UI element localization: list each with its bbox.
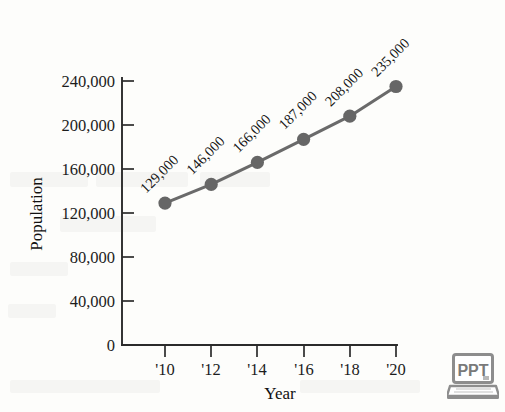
y-axis-title: Population xyxy=(27,177,46,251)
y-tick-label: 80,000 xyxy=(70,248,115,267)
data-point-label: 129,000 xyxy=(137,152,182,197)
x-tick-label: '20 xyxy=(386,360,405,379)
data-point-label: 235,000 xyxy=(368,35,413,80)
y-tick-label: 200,000 xyxy=(61,116,115,135)
y-tick-label: 40,000 xyxy=(70,292,115,311)
ppt-badge[interactable]: PPT xyxy=(447,351,499,401)
data-point xyxy=(251,156,264,169)
x-tick-label: '10 xyxy=(155,360,174,379)
y-tick-label: 120,000 xyxy=(61,204,115,223)
data-point xyxy=(297,133,310,146)
y-tick-label: 160,000 xyxy=(61,160,115,179)
x-tick-label: '16 xyxy=(294,360,313,379)
data-point-label: 208,000 xyxy=(322,65,367,110)
x-axis-ticks xyxy=(165,345,396,357)
x-tick-label: '18 xyxy=(340,360,359,379)
x-tick-label: '14 xyxy=(247,360,266,379)
chart-figure: 240,000 200,000 160,000 120,000 80,000 4… xyxy=(0,0,505,412)
data-point xyxy=(158,197,171,210)
line-chart-plot: 240,000 200,000 160,000 120,000 80,000 4… xyxy=(0,0,505,412)
data-point xyxy=(205,178,218,191)
ppt-badge-label: PPT xyxy=(457,362,488,379)
data-point-label: 166,000 xyxy=(229,111,274,156)
data-point-label: 187,000 xyxy=(275,88,320,133)
laptop-icon: PPT xyxy=(447,351,499,401)
data-point xyxy=(343,110,356,123)
x-tick-label: '12 xyxy=(201,360,220,379)
data-series-line xyxy=(165,87,396,204)
y-axis-tick-labels: 240,000 200,000 160,000 120,000 80,000 4… xyxy=(61,72,115,355)
data-point-labels: 129,000 146,000 166,000 187,000 208,000 … xyxy=(137,35,413,196)
y-tick-label: 0 xyxy=(107,336,115,355)
x-axis-tick-labels: '10 '12 '14 '16 '18 '20 xyxy=(155,360,405,379)
y-tick-label: 240,000 xyxy=(61,72,115,91)
data-point xyxy=(389,80,402,93)
y-axis-ticks xyxy=(122,81,134,301)
x-axis-title: Year xyxy=(264,384,296,403)
data-point-label: 146,000 xyxy=(183,133,228,178)
